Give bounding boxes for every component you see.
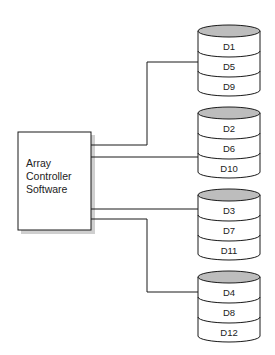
disk-label: D1 [198,41,260,52]
controller-label-line: Controller [26,170,72,183]
disk-label: D4 [198,287,260,298]
disk-label: D3 [198,205,260,216]
disk-label: D7 [198,225,260,236]
disk-label: D11 [198,245,260,256]
controller-label-line: Array [26,157,72,170]
disk-label: D5 [198,61,260,72]
disk-label: D9 [198,81,260,92]
connector-array-1 [91,62,198,145]
controller-label: Array Controller Software [26,157,72,196]
disk-label: D2 [198,123,260,134]
disk-label: D8 [198,307,260,318]
controller-label-line: Software [26,183,72,196]
disk-label: D6 [198,143,260,154]
connector-array-4 [91,219,198,292]
disk-label: D12 [198,327,260,338]
disk-label: D10 [198,163,260,174]
